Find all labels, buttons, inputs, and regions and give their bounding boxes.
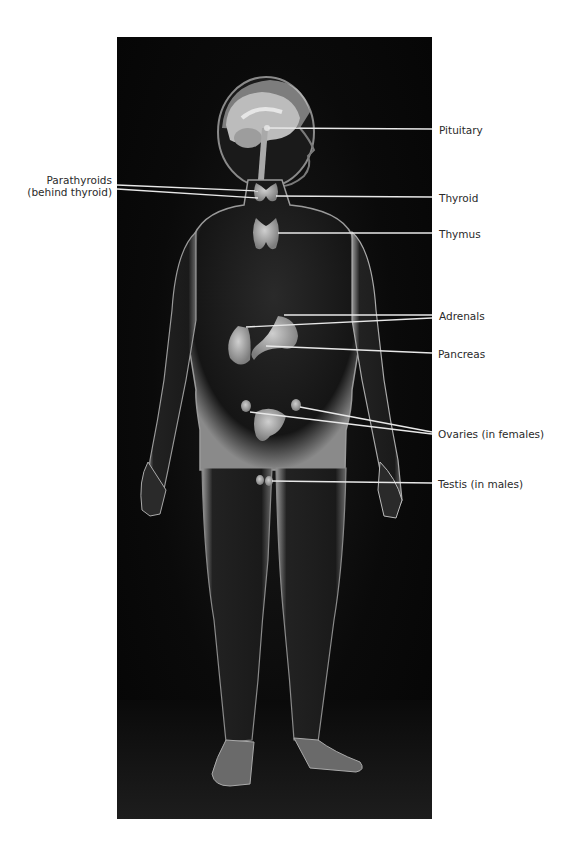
label-adrenals: Adrenals [439, 310, 485, 322]
label-parathyroids-line2: (behind thyroid) [10, 186, 112, 198]
label-testis: Testis (in males) [438, 478, 523, 490]
label-thymus: Thymus [439, 228, 481, 240]
ovary-left [241, 400, 251, 412]
legs [202, 468, 362, 786]
thyroid-line [276, 196, 432, 197]
pituitary-line [268, 128, 432, 129]
label-parathyroids: Parathyroids (behind thyroid) [10, 174, 112, 198]
label-pituitary: Pituitary [439, 124, 483, 136]
testis-left [256, 475, 264, 485]
label-thyroid: Thyroid [439, 192, 478, 204]
testis-right [265, 476, 273, 486]
head [218, 77, 314, 187]
label-parathyroids-line1: Parathyroids [10, 174, 112, 186]
ovary-right [291, 399, 301, 411]
label-pancreas: Pancreas [438, 348, 485, 360]
label-ovaries: Ovaries (in females) [438, 428, 544, 440]
